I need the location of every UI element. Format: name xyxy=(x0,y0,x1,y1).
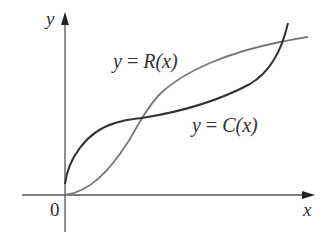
x-axis-arrow-icon xyxy=(302,191,315,199)
revenue-label-lhs: y xyxy=(111,50,122,73)
revenue-label-fn: R xyxy=(142,50,155,72)
revenue-cost-diagram: y x 0 y = R(x) y = C(x) xyxy=(0,0,325,242)
y-axis-label: y xyxy=(44,8,55,29)
cost-label-arg: (x) xyxy=(236,114,259,137)
cost-curve-label: y = C(x) xyxy=(190,114,258,137)
cost-label-fn: C xyxy=(222,114,236,136)
revenue-curve xyxy=(65,37,308,195)
revenue-label-arg: (x) xyxy=(155,50,178,73)
revenue-label-eq: = xyxy=(122,50,143,72)
x-axis-label: x xyxy=(302,199,312,220)
y-axis-arrow-icon xyxy=(61,12,69,25)
diagram-canvas: y x 0 y = R(x) y = C(x) xyxy=(0,0,325,242)
origin-label: 0 xyxy=(50,199,60,220)
cost-label-lhs: y xyxy=(190,114,201,137)
cost-label-eq: = xyxy=(201,114,222,136)
revenue-curve-label: y = R(x) xyxy=(111,50,178,73)
